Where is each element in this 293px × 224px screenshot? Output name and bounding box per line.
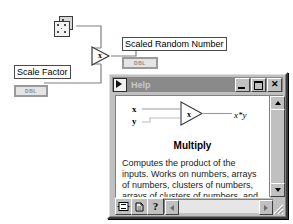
chevron-down-icon	[275, 188, 281, 192]
help-window-title: Help	[131, 80, 235, 90]
help-content-area: x x y x*y Multiply Computes the product …	[115, 95, 270, 198]
help-description: Computes the product of the inputs. Work…	[122, 158, 264, 198]
show-simple-help-button[interactable]	[115, 198, 132, 215]
vertical-scrollbar[interactable]	[269, 95, 283, 197]
labview-help-icon	[113, 78, 127, 92]
help-window[interactable]: Help ✕ x x y x*y Multiply Computes the p…	[107, 72, 288, 219]
lock-help-button[interactable]	[131, 198, 148, 215]
chevron-up-icon	[275, 101, 281, 105]
help-heading: Multiply	[116, 140, 269, 152]
close-button[interactable]: ✕	[267, 78, 282, 92]
chevron-left-icon	[170, 205, 174, 211]
screenshot-root: x Scaled Random Number DBL Scale Factor …	[0, 0, 293, 224]
scroll-down-button[interactable]	[270, 183, 285, 197]
resize-grip[interactable]	[271, 202, 284, 215]
terminal-scaled-random-number[interactable]: Scaled Random Number DBL	[122, 37, 227, 69]
terminal-label: Scaled Random Number	[122, 37, 227, 51]
vertical-scroll-thumb[interactable]	[270, 109, 285, 186]
chevron-right-icon	[264, 205, 268, 211]
multiply-glyph: x	[95, 51, 105, 61]
die-front	[54, 21, 70, 37]
terminal-datatype-dbl: DBL	[122, 57, 158, 69]
scroll-left-button[interactable]	[165, 200, 179, 215]
close-icon: ✕	[268, 79, 281, 90]
help-input-x-label: x	[132, 104, 137, 114]
svg-text:x: x	[187, 110, 191, 119]
online-help-button[interactable]: ?	[147, 198, 164, 215]
lock-icon	[132, 199, 147, 214]
help-output-label: x*y	[234, 110, 247, 120]
terminal-scale-factor[interactable]: Scale Factor DBL	[14, 65, 71, 97]
multiply-node[interactable]: x	[89, 45, 111, 67]
random-number-node[interactable]	[54, 16, 76, 36]
scroll-up-button[interactable]	[270, 96, 285, 110]
terminal-label: Scale Factor	[14, 65, 71, 79]
horizontal-scrollbar[interactable]	[164, 199, 273, 213]
help-toolbar[interactable]: ?	[115, 198, 282, 213]
maximize-button[interactable]	[251, 78, 266, 92]
question-mark-icon: ?	[148, 199, 163, 213]
diagram-toggle-icon	[116, 199, 131, 214]
terminal-datatype-dbl: DBL	[14, 85, 48, 97]
help-window-frame: Help ✕ x x y x*y Multiply Computes the p…	[109, 74, 286, 217]
help-input-y-label: y	[132, 116, 137, 126]
minimize-button[interactable]	[235, 78, 250, 92]
help-titlebar[interactable]: Help ✕	[112, 77, 283, 92]
